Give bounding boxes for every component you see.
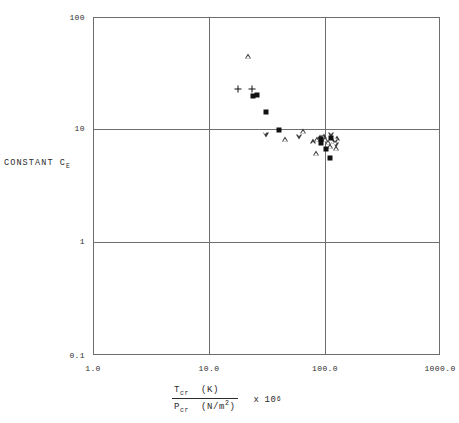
- data-point-triangle-up: [282, 137, 288, 142]
- data-point-triangle-down: [263, 133, 269, 138]
- y-axis-title-main: CONSTANT C: [4, 158, 66, 168]
- gridline-horizontal-10: [94, 129, 439, 130]
- y-tick-label-1: 1: [37, 237, 85, 246]
- x-axis-multiplier-symbol: x: [254, 395, 260, 405]
- x-axis-multiplier-base: 10: [265, 395, 277, 405]
- data-point-triangle-up: [314, 137, 320, 142]
- x-tick-label-1000: 1000.0: [410, 364, 459, 373]
- scatter-chart-figure: 100 10 1 0.1 1.0 10.0 100.0 1000.0 CONST…: [0, 0, 459, 423]
- x-axis-title: Tcr (K) Pcr (N/m2) x106: [172, 385, 281, 414]
- y-tick-label-10: 10: [37, 124, 85, 133]
- data-point-square: [319, 137, 324, 142]
- data-point-square: [318, 141, 323, 146]
- gridline-vertical-100: [325, 18, 326, 354]
- data-point-square: [328, 156, 333, 161]
- numerator-subscript: cr: [180, 390, 189, 397]
- y-axis-title-subscript: E: [66, 163, 70, 170]
- x-axis-title-denominator: Pcr (N/m2): [172, 399, 238, 414]
- gridline-horizontal-1: [94, 242, 439, 243]
- data-point-triangle-up: [327, 143, 333, 148]
- gridline-vertical-10: [209, 18, 210, 354]
- data-point-triangle-up: [245, 53, 251, 58]
- data-point-plus: [248, 86, 255, 93]
- x-axis-multiplier-exponent: 6: [277, 396, 282, 403]
- data-point-plus: [235, 86, 242, 93]
- data-point-triangle-up: [310, 139, 316, 144]
- x-tick-label-100: 100.0: [295, 364, 355, 373]
- data-point-triangle-up: [317, 135, 323, 140]
- denominator-unit-post: ): [230, 402, 236, 412]
- data-point-square: [328, 136, 333, 141]
- numerator-unit: (K): [201, 385, 219, 395]
- y-tick-label-0.1: 0.1: [37, 351, 85, 360]
- data-point-triangle-up: [331, 138, 337, 143]
- y-axis-title: CONSTANT CE: [4, 158, 70, 170]
- denominator-subscript: cr: [180, 407, 189, 414]
- data-point-square: [254, 93, 259, 98]
- data-point-triangle-up: [313, 151, 319, 156]
- y-tick-label-100: 100: [37, 13, 85, 22]
- x-tick-label-1: 1.0: [63, 364, 123, 373]
- plot-area: [93, 17, 440, 355]
- data-point-triangle-up: [333, 146, 339, 151]
- data-point-triangle-down: [332, 140, 338, 145]
- data-point-triangle-up: [334, 136, 340, 141]
- data-point-square: [250, 94, 255, 99]
- x-tick-label-10: 10.0: [179, 364, 239, 373]
- data-point-square: [263, 109, 268, 114]
- data-point-triangle-down: [333, 143, 339, 148]
- x-axis-title-numerator: Tcr (K): [172, 385, 238, 399]
- denominator-unit-pre: (N/m: [201, 402, 225, 412]
- x-axis-title-fraction: Tcr (K) Pcr (N/m2): [172, 385, 238, 414]
- data-point-triangle-down: [296, 134, 302, 139]
- data-point-triangle-down: [328, 132, 334, 137]
